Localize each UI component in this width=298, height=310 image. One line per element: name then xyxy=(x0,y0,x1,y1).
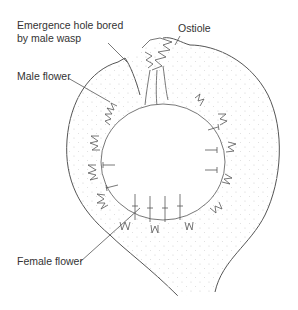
label-ostiole: Ostiole xyxy=(178,22,211,34)
label-emergence-hole-line2: by male wasp xyxy=(17,32,81,44)
label-female-flower: Female flower xyxy=(17,255,83,267)
label-emergence-hole-line1: Emergence hole bored xyxy=(17,19,123,31)
emergence-hole-leader xyxy=(108,43,127,62)
label-male-flower: Male flower xyxy=(17,70,71,82)
